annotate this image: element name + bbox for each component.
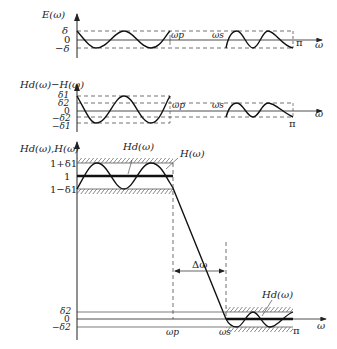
p3-ylabel: Hd(ω),H(ω) bbox=[19, 143, 79, 154]
arrow-left-icon bbox=[174, 269, 180, 274]
label-omega: ω bbox=[317, 320, 325, 331]
tick-1-minus-d1: 1−δ1 bbox=[50, 184, 77, 195]
error-pass-ripple bbox=[77, 31, 170, 48]
tick-neg-d1: −δ1 bbox=[52, 121, 71, 131]
diff-pass-ripple bbox=[77, 96, 170, 123]
label-pi: π bbox=[289, 118, 296, 129]
panel-response: Δω Hd(ω),H(ω) Hd(ω) H(ω) 1+δ1 1 1−δ1 Hd(… bbox=[19, 141, 326, 340]
lower-stop-hatch bbox=[226, 327, 293, 332]
tick-neg-d2: −δ2 bbox=[52, 322, 71, 332]
panel-difference: Hd(ω)−H(ω) δ1 δ2 0 −δ2 −δ1 ωp ωs π ω bbox=[19, 79, 323, 132]
tick-1-plus-d1: 1+δ1 bbox=[50, 158, 77, 169]
label-omega: ω bbox=[315, 39, 323, 50]
filter-diagram: E(ω) δ 0 −δ ωp ωs π ω Hd(ω)−H(ω) δ1 δ2 0… bbox=[0, 0, 337, 349]
label-hd-pass: Hd(ω) bbox=[122, 141, 154, 152]
label-omega: ω bbox=[315, 108, 323, 119]
label-ws: ωs bbox=[212, 100, 224, 110]
p1-ylabel: E(ω) bbox=[41, 9, 65, 20]
label-delta-omega: Δω bbox=[192, 259, 207, 270]
upper-pass-hatch bbox=[77, 158, 173, 163]
tick-neg-delta: −δ bbox=[55, 43, 69, 54]
error-stop-ripple bbox=[226, 31, 293, 48]
diff-stop-ripple bbox=[226, 103, 293, 117]
label-hd-stop: Hd(ω) bbox=[261, 289, 293, 300]
label-ws: ωs bbox=[219, 327, 231, 337]
tick-one: 1 bbox=[64, 171, 70, 182]
label-wp: ωp bbox=[166, 327, 179, 337]
label-pi: π bbox=[296, 37, 303, 48]
label-wp: ωp bbox=[171, 30, 184, 40]
arrow-right-icon bbox=[219, 269, 225, 274]
lower-pass-hatch bbox=[77, 189, 173, 194]
label-pi: π bbox=[293, 325, 300, 336]
label-ws: ωs bbox=[212, 30, 224, 40]
label-wp: ωp bbox=[172, 100, 185, 110]
panel-error: E(ω) δ 0 −δ ωp ωs π ω bbox=[41, 9, 323, 58]
p2-ylabel: Hd(ω)−H(ω) bbox=[19, 79, 84, 90]
response-curve bbox=[77, 163, 226, 319]
upper-stop-hatch bbox=[226, 307, 293, 312]
label-h: H(ω) bbox=[179, 148, 205, 159]
